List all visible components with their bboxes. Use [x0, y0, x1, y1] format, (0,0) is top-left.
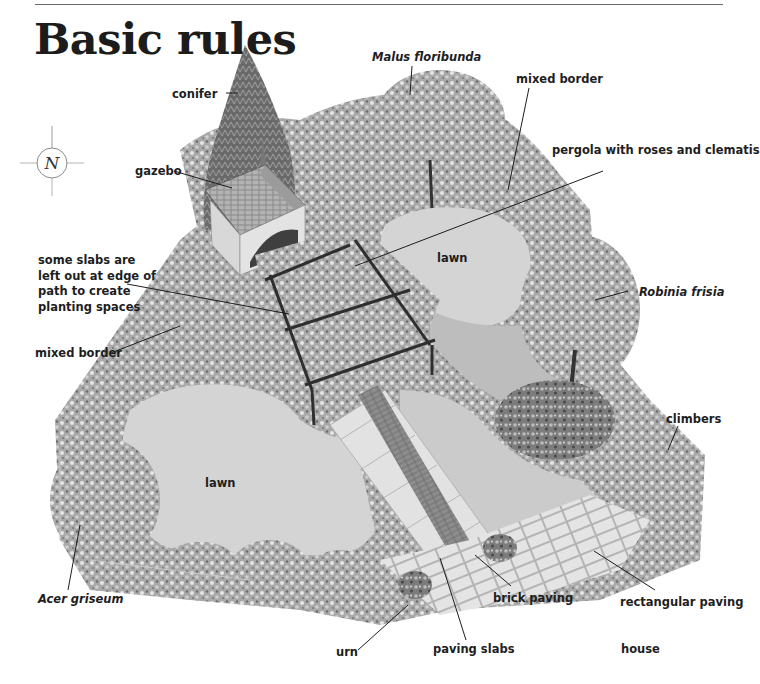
label-mixed-border-left: mixed border — [35, 346, 122, 360]
label-acer-griseum: Acer griseum — [38, 592, 124, 606]
label-paving-slabs: paving slabs — [433, 642, 514, 656]
label-lawn-bottom: lawn — [205, 476, 236, 490]
label-mixed-border-top: mixed border — [516, 72, 603, 86]
label-brick-paving: brick paving — [493, 591, 573, 605]
label-pergola: pergola with roses and clematis — [552, 143, 760, 157]
label-gazebo: gazebo — [135, 164, 182, 178]
label-malus-floribunda: Malus floribunda — [372, 50, 481, 64]
label-slabs-note: some slabs are left out at edge of path … — [38, 253, 156, 315]
label-rectangular-paving: rectangular paving — [620, 595, 743, 609]
label-robinia-frisia: Robinia frisia — [639, 285, 724, 299]
label-climbers: climbers — [666, 412, 721, 426]
label-lawn-top: lawn — [437, 251, 468, 265]
label-urn: urn — [336, 645, 358, 659]
label-conifer: conifer — [172, 87, 217, 101]
label-house: house — [621, 642, 660, 656]
